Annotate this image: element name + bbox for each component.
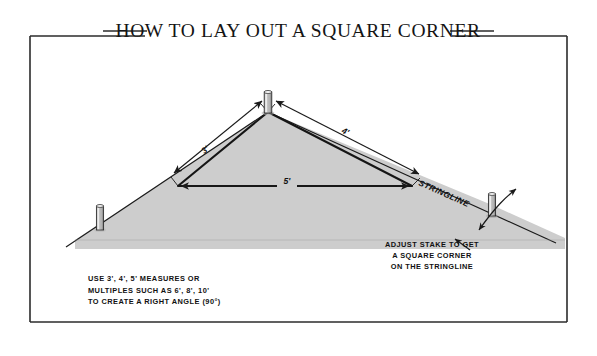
figure-title: HOW TO LAY OUT A SQUARE CORNER bbox=[115, 20, 480, 41]
note-block-right: ADJUST STAKE TO GET A SQUARE CORNER ON T… bbox=[385, 240, 479, 271]
note-right-line-3: ON THE STRINGLINE bbox=[391, 262, 473, 271]
note-left-line-3: TO CREATE A RIGHT ANGLE (90°) bbox=[88, 297, 221, 306]
figure-page: HOW TO LAY OUT A SQUARE CORNER 3' 4' bbox=[0, 0, 597, 356]
dimension-label-base: 5' bbox=[284, 176, 292, 186]
note-right-line-1: ADJUST STAKE TO GET bbox=[385, 240, 479, 249]
square-corner-diagram: HOW TO LAY OUT A SQUARE CORNER 3' 4' bbox=[0, 0, 597, 356]
note-left-line-2: MULTIPLES SUCH AS 6', 8', 10' bbox=[88, 286, 209, 295]
note-left-line-1: USE 3', 4', 5' MEASURES OR bbox=[88, 274, 200, 283]
note-right-line-2: A SQUARE CORNER bbox=[392, 251, 472, 260]
